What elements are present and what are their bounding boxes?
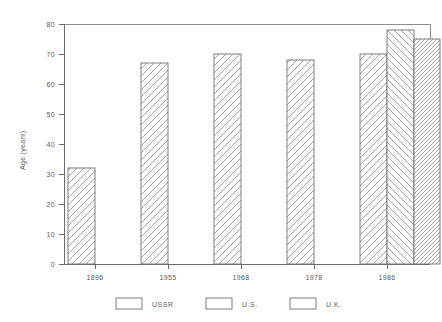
y-tick-label: 40 [46, 141, 55, 148]
y-tick-label: 0 [51, 261, 55, 268]
y-tick-label: 50 [46, 111, 55, 118]
legend-label-ussr: USSR [152, 301, 173, 308]
y-tick-label: 10 [46, 231, 55, 238]
legend-label-us: U.S. [242, 301, 258, 308]
x-tick-label: 1986 [378, 274, 395, 281]
bar-us-1986 [387, 30, 414, 264]
y-tick-label: 20 [46, 201, 55, 208]
bar-uk-1986 [414, 39, 440, 264]
bar-ussr-1968 [214, 54, 241, 264]
y-tick-label: 70 [46, 51, 55, 58]
x-tick-label: 1968 [232, 274, 249, 281]
bar-ussr-1955 [141, 63, 168, 264]
bar-chart-figure: 80 70 60 50 40 30 20 10 0 Age (years) [0, 0, 442, 322]
chart-canvas: 80 70 60 50 40 30 20 10 0 Age (years) [0, 0, 442, 322]
x-tick-label: 1955 [159, 274, 176, 281]
x-tick-label: 1896 [86, 274, 103, 281]
y-tick-label: 30 [46, 171, 55, 178]
y-tick-label: 80 [46, 21, 55, 28]
y-tick-label: 60 [46, 81, 55, 88]
bar-ussr-1978 [287, 60, 314, 264]
x-tick-label: 1978 [305, 274, 322, 281]
bar-ussr-1896 [68, 168, 95, 264]
legend-label-uk: U.K. [326, 301, 342, 308]
y-axis-title: Age (years) [19, 131, 27, 170]
bar-ussr-1986 [360, 54, 387, 264]
